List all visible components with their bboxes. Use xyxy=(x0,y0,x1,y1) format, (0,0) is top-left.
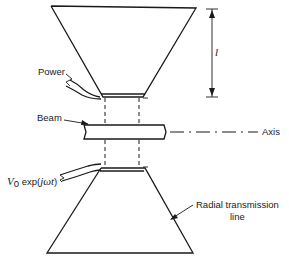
beam-tube xyxy=(84,125,166,139)
beam-label: Beam xyxy=(37,112,62,123)
axis-label: Axis xyxy=(262,126,280,137)
radial-line-label: Radial transmission xyxy=(196,199,279,210)
source-label: V0 exp(jωt) xyxy=(7,175,57,189)
gap-dashed-walls xyxy=(105,98,148,167)
lower-cone xyxy=(47,168,193,253)
source-coax xyxy=(60,164,101,182)
radial-line-label-2: line xyxy=(230,211,245,222)
length-label: l xyxy=(215,46,218,58)
arrow-up-icon xyxy=(209,10,215,18)
diagram-canvas: l Power Beam Axis V0 exp(jωt) Radial tra… xyxy=(0,0,289,262)
beam-leader xyxy=(64,120,89,125)
arrow-icon xyxy=(81,120,89,125)
upper-cone xyxy=(51,6,196,97)
power-label: Power xyxy=(38,66,65,77)
arrow-down-icon xyxy=(209,88,215,96)
power-coax xyxy=(66,74,101,99)
radial-leader xyxy=(170,205,193,220)
